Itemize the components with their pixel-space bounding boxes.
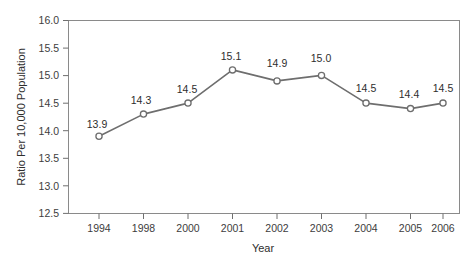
x-tick-label: 2001 [221, 222, 245, 234]
x-tick-label: 2005 [399, 222, 423, 234]
x-tick-label: 1998 [132, 222, 156, 234]
y-axis-title: Ratio Per 10,000 Population [15, 48, 27, 186]
data-labels: 13.9 14.3 14.5 15.1 14.9 15.0 14.5 14.4 … [87, 50, 454, 130]
x-tick-label: 2002 [265, 222, 289, 234]
line-chart: 16.0 15.5 15.0 14.5 14.0 13.5 13.0 12.5 … [0, 0, 473, 266]
y-tick-label: 16.0 [39, 14, 60, 26]
data-point-label: 14.5 [433, 82, 454, 94]
data-point-marker [440, 100, 446, 106]
x-axis-title: Year [252, 242, 275, 254]
x-tick-label: 2003 [310, 222, 334, 234]
data-point-label: 14.3 [131, 94, 152, 106]
data-point-label: 14.4 [399, 88, 420, 100]
x-tick-label: 2004 [354, 222, 378, 234]
data-point-marker [185, 100, 191, 106]
x-axis: 1994 1998 2000 2001 2002 2003 2004 2005 … [87, 214, 455, 235]
chart-page: 16.0 15.5 15.0 14.5 14.0 13.5 13.0 12.5 … [0, 0, 473, 266]
y-tick-label: 12.5 [39, 207, 60, 219]
data-point-marker [363, 100, 369, 106]
plot-frame [69, 21, 460, 214]
data-point-marker [318, 72, 324, 78]
data-point-marker [140, 111, 146, 117]
y-tick-label: 13.0 [39, 180, 60, 192]
data-point-label: 13.9 [87, 118, 108, 130]
data-point-label: 14.5 [356, 82, 377, 94]
y-tick-label: 14.0 [39, 125, 60, 137]
data-point-label: 15.0 [311, 52, 332, 64]
data-point-label: 14.9 [267, 57, 288, 69]
y-tick-label: 15.0 [39, 69, 60, 81]
x-tick-label: 2000 [176, 222, 200, 234]
data-point-marker [274, 78, 280, 84]
x-tick-label: 1994 [87, 222, 111, 234]
y-tick-label: 14.5 [39, 97, 60, 109]
data-point-label: 14.5 [177, 83, 198, 95]
data-point-marker [96, 133, 102, 139]
data-point-label: 15.1 [221, 50, 242, 62]
y-tick-label: 13.5 [39, 152, 60, 164]
y-tick-label: 15.5 [39, 42, 60, 54]
y-axis: 16.0 15.5 15.0 14.5 14.0 13.5 13.0 12.5 [39, 14, 69, 219]
data-point-marker [407, 106, 413, 112]
x-tick-label: 2006 [431, 222, 455, 234]
data-point-marker [229, 67, 235, 73]
